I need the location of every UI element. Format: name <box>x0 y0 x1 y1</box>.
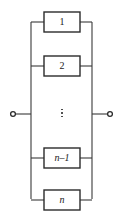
right-terminal-node-icon <box>108 112 113 117</box>
ellipsis-dot <box>61 116 63 118</box>
branch-n-minus-1-box <box>44 148 80 168</box>
left-terminal-node-icon <box>11 112 16 117</box>
ellipsis-dot <box>61 109 63 111</box>
branch-2-box <box>44 56 80 76</box>
ellipsis-dot <box>61 112 63 114</box>
branch-n-box <box>44 190 80 210</box>
branch-1-box <box>44 12 80 32</box>
parallel-network-diagram: 1 2 n–1 n <box>0 0 123 221</box>
vertical-ellipsis-icon <box>54 103 70 123</box>
